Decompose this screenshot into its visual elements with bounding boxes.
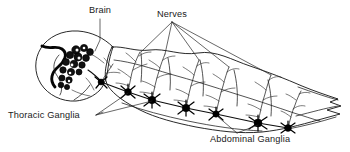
- label-nerves: Nerves: [157, 9, 187, 19]
- brain-lobe: [67, 68, 74, 75]
- label-abdominal-ganglia: Abdominal Ganglia: [210, 134, 291, 144]
- brain-lobe: [63, 59, 70, 66]
- brain-lobe: [66, 51, 73, 58]
- figure-root: Brain Nerves Thoracic Ganglia Abdominal …: [0, 0, 350, 152]
- brain-lobe: [79, 62, 85, 68]
- brain-lobe-highlight: [69, 72, 72, 75]
- brain-lobe: [59, 75, 65, 81]
- ganglion-body: [98, 79, 104, 85]
- label-thoracic-ganglia: Thoracic Ganglia: [8, 110, 81, 120]
- brain-lobe: [76, 69, 82, 75]
- ganglion-body: [182, 104, 190, 112]
- brain-lobe-highlight: [83, 47, 86, 50]
- ganglion-body: [148, 96, 156, 104]
- brain-lobe-highlight: [68, 80, 70, 82]
- brain-lobe: [58, 82, 64, 88]
- brain-lobe: [87, 49, 94, 56]
- ganglion-body: [213, 111, 219, 117]
- brain-lobe-highlight: [71, 64, 74, 67]
- label-brain: Brain: [89, 5, 111, 15]
- brain-lobe: [60, 67, 66, 73]
- brain-lobe-highlight: [78, 57, 81, 60]
- nervous-system-diagram: Brain Nerves Thoracic Ganglia Abdominal …: [0, 0, 350, 152]
- brain-lobe: [83, 55, 90, 62]
- brain-lobe-highlight: [76, 49, 79, 52]
- ganglion-body: [285, 125, 292, 132]
- brain-lobe: [64, 84, 69, 89]
